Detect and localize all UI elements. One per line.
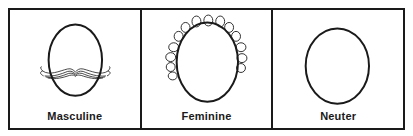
label-feminine: Feminine: [142, 110, 272, 122]
panel-neuter: Neuter: [271, 10, 403, 128]
label-neuter: Neuter: [273, 110, 403, 122]
panel-masculine: Masculine: [10, 10, 140, 128]
face-outline: [306, 28, 369, 103]
face-outline: [176, 22, 237, 101]
face-outline: [49, 24, 102, 95]
label-masculine: Masculine: [10, 110, 140, 122]
panel-feminine: Feminine: [140, 10, 272, 128]
figure-frame: Masculine Feminine: [8, 8, 405, 130]
